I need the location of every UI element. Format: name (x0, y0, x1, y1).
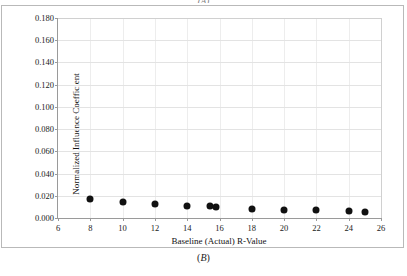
x-axis-title: Baseline (Actual) R-Value (57, 236, 381, 246)
y-axis-tick-label: 0.160 (35, 35, 54, 45)
y-axis-tick-mark (55, 18, 58, 19)
x-axis-tick-label: 20 (280, 223, 289, 233)
data-point (184, 202, 191, 209)
x-axis-tick-mark (381, 218, 382, 221)
y-axis-tick-mark (55, 174, 58, 175)
y-axis-tick-mark (55, 85, 58, 86)
x-axis-tick-label: 12 (151, 223, 160, 233)
data-point (313, 207, 320, 214)
x-axis-tick-mark (123, 218, 124, 221)
gridline-vertical (316, 18, 317, 218)
x-axis-tick-label: 14 (183, 223, 192, 233)
y-axis-tick-mark (55, 151, 58, 152)
x-axis-tick-mark (187, 218, 188, 221)
gridline-horizontal (58, 85, 381, 86)
y-axis-tick-label: 0.060 (35, 146, 54, 156)
x-axis-tick-mark (155, 218, 156, 221)
data-point (248, 205, 255, 212)
data-point (361, 208, 368, 215)
x-axis-tick-label: 16 (215, 223, 224, 233)
x-axis-tick-label: 10 (118, 223, 127, 233)
scatter-plot-area: Normalized Influence Coefficient 0.0000.… (57, 18, 381, 219)
gridline-vertical (187, 18, 188, 218)
x-axis-tick-label: 8 (88, 223, 92, 233)
y-axis-tick-label: 0.040 (35, 169, 54, 179)
y-axis-tick-mark (55, 196, 58, 197)
gridline-vertical (155, 18, 156, 218)
x-axis-tick-label: 6 (56, 223, 60, 233)
gridline-horizontal (58, 107, 381, 108)
gridline-vertical (349, 18, 350, 218)
x-axis-tick-mark (252, 218, 253, 221)
x-axis-tick-mark (58, 218, 59, 221)
gridline-vertical (123, 18, 124, 218)
x-axis-tick-label: 24 (344, 223, 353, 233)
y-axis-tick-mark (55, 62, 58, 63)
data-point (281, 207, 288, 214)
gridline-horizontal (58, 151, 381, 152)
gridline-vertical (90, 18, 91, 218)
figure-caption-top-label: (A) (198, 0, 210, 3)
x-axis-tick-label: 18 (248, 223, 257, 233)
data-point (119, 198, 126, 205)
gridline-horizontal (58, 40, 381, 41)
data-point (345, 208, 352, 215)
y-axis-title: Normalized Influence Coefficient (71, 54, 81, 214)
y-axis-tick-label: 0.080 (35, 124, 54, 134)
x-axis-tick-mark (316, 218, 317, 221)
figure-caption-bottom: (B) (0, 252, 407, 263)
y-axis-tick-mark (55, 129, 58, 130)
data-point (87, 195, 94, 202)
x-axis-tick-mark (284, 218, 285, 221)
gridline-horizontal (58, 18, 381, 19)
gridline-horizontal (58, 62, 381, 63)
gridline-horizontal (58, 129, 381, 130)
data-point (151, 200, 158, 207)
gridline-vertical (381, 18, 382, 218)
x-axis-tick-mark (349, 218, 350, 221)
gridline-vertical (284, 18, 285, 218)
gridline-horizontal (58, 196, 381, 197)
y-axis-tick-label: 0.140 (35, 57, 54, 67)
y-axis-tick-mark (55, 40, 58, 41)
y-axis-tick-mark (55, 107, 58, 108)
y-axis-tick-label: 0.000 (35, 213, 54, 223)
gridline-vertical (252, 18, 253, 218)
y-axis-tick-label: 0.180 (35, 13, 54, 23)
figure-caption-bottom-close: ) (207, 252, 210, 263)
x-axis-tick-label: 22 (312, 223, 321, 233)
y-axis-tick-label: 0.100 (35, 102, 54, 112)
figure-caption-top-partial: (A) (0, 0, 407, 3)
x-axis-tick-mark (220, 218, 221, 221)
y-axis-tick-label: 0.120 (35, 80, 54, 90)
x-axis-tick-label: 26 (377, 223, 386, 233)
gridline-vertical (220, 18, 221, 218)
x-axis-tick-mark (90, 218, 91, 221)
data-point (213, 204, 220, 211)
y-axis-tick-label: 0.020 (35, 191, 54, 201)
gridline-horizontal (58, 174, 381, 175)
figure-root: (A) Normalized Influence Coefficient 0.0… (0, 0, 407, 276)
